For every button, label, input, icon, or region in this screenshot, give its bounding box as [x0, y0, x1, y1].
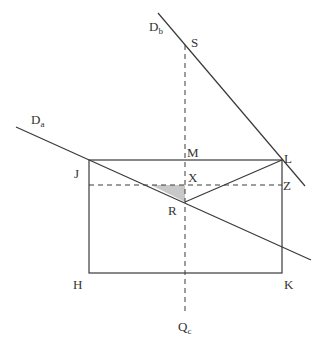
label-h: H — [73, 277, 82, 292]
label-qc: Qc — [178, 319, 191, 336]
label-z: Z — [283, 178, 291, 193]
label-x: X — [188, 170, 198, 185]
label-l: L — [284, 151, 292, 166]
label-j: J — [74, 166, 79, 181]
label-db: Db — [149, 19, 163, 36]
line-da — [16, 127, 311, 260]
label-k: K — [284, 277, 294, 292]
label-s: S — [191, 35, 198, 50]
label-da: Da — [31, 112, 44, 129]
geometry-diagram: Db S Da M L J X Z R H K Qc — [0, 0, 325, 347]
segment-rl — [185, 160, 282, 202]
label-m: M — [187, 145, 199, 160]
shaded-triangle — [151, 185, 185, 202]
label-r: R — [168, 203, 177, 218]
